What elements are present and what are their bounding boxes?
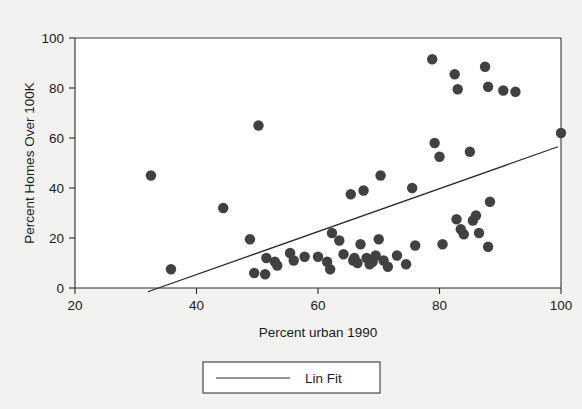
data-point [474, 228, 484, 238]
data-point [427, 54, 437, 64]
data-point [253, 120, 263, 130]
data-point [299, 252, 309, 262]
x-tick-label: 100 [550, 298, 573, 313]
data-point [434, 152, 444, 162]
data-point [358, 185, 368, 195]
data-point [556, 128, 566, 138]
data-point [471, 210, 481, 220]
data-point [249, 268, 259, 278]
y-tick-label: 80 [49, 81, 64, 96]
data-point [451, 214, 461, 224]
data-point [437, 239, 447, 249]
data-point [346, 189, 356, 199]
chart-legend: Lin Fit [203, 362, 380, 393]
data-point [407, 183, 417, 193]
x-axis-title: Percent urban 1990 [259, 325, 378, 340]
data-point [485, 197, 495, 207]
data-point [334, 235, 344, 245]
data-point [338, 249, 348, 259]
x-tick-label: 40 [189, 298, 204, 313]
chart-canvas: 020406080100 20406080100 Percent Homes O… [0, 0, 582, 409]
data-point [166, 264, 176, 274]
data-point [327, 228, 337, 238]
data-point [260, 269, 270, 279]
data-point [325, 264, 335, 274]
data-point [272, 260, 282, 270]
x-tick-label: 20 [67, 298, 82, 313]
data-point [429, 138, 439, 148]
data-point [410, 240, 420, 250]
y-tick-label: 60 [49, 131, 64, 146]
data-point [313, 252, 323, 262]
data-point [146, 170, 156, 180]
data-point [374, 234, 384, 244]
data-point [465, 147, 475, 157]
data-point [392, 250, 402, 260]
data-point [245, 234, 255, 244]
data-point [483, 242, 493, 252]
data-point [355, 239, 365, 249]
y-axis-title: Percent Homes Over 100K [22, 82, 37, 243]
data-point [352, 258, 362, 268]
data-point [453, 84, 463, 94]
y-tick-label: 20 [49, 231, 64, 246]
data-point [498, 85, 508, 95]
data-point [483, 82, 493, 92]
y-tick-label: 0 [56, 281, 64, 296]
data-point [218, 203, 228, 213]
data-point [449, 69, 459, 79]
data-point [401, 259, 411, 269]
y-tick-label: 100 [41, 31, 64, 46]
x-tick-label: 60 [310, 298, 325, 313]
x-tick-label: 80 [432, 298, 447, 313]
scatter-chart-figure: 020406080100 20406080100 Percent Homes O… [0, 0, 582, 409]
data-point [459, 229, 469, 239]
y-tick-label: 40 [49, 181, 64, 196]
data-point [289, 255, 299, 265]
data-point [510, 87, 520, 97]
legend-label-lin-fit: Lin Fit [305, 371, 342, 386]
data-point [383, 262, 393, 272]
data-point [375, 170, 385, 180]
data-point [480, 62, 490, 72]
